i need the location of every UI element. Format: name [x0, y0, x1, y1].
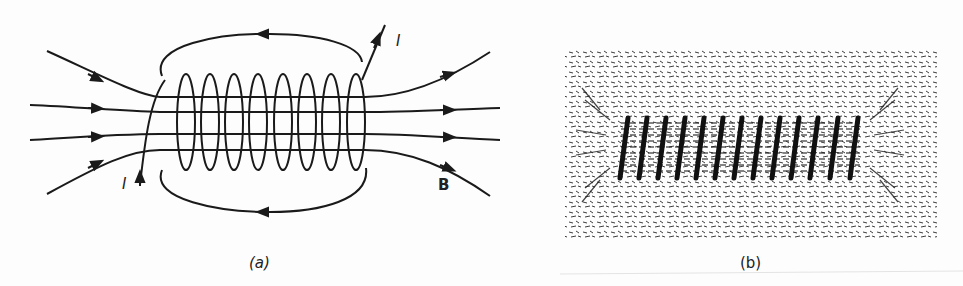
panel-b-iron-filings: (b) [540, 0, 963, 286]
field-label-b: B [438, 176, 449, 194]
current-label-top: I [396, 32, 400, 50]
current-label-bottom: I [122, 175, 126, 193]
panel-a-solenoid-diagram: I I B (a) [0, 0, 520, 286]
caption-a: (a) [249, 254, 270, 272]
caption-b: (b) [740, 254, 761, 272]
solenoid-field-lines-drawing [0, 0, 520, 286]
iron-filings-pattern [540, 0, 963, 286]
